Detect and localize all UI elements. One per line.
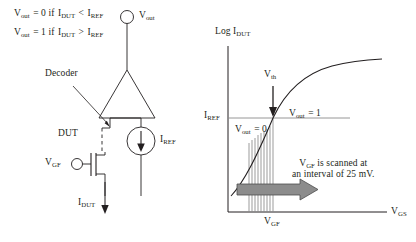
condition-2-vout: Vout — [14, 27, 30, 37]
condition-line-1: Vout = 0 if IDUT < IREF — [14, 8, 103, 19]
chart-vgf-tick-label: VGF — [264, 216, 280, 227]
scan-note-annotation: VGF is scanned at an interval of 25 mV. — [292, 158, 374, 180]
condition-1-vout: Vout — [14, 8, 30, 18]
vgf-terminal-label: VGF — [45, 157, 61, 168]
chart-iref-tick-label: IREF — [204, 110, 220, 121]
vout-terminal-circle — [121, 11, 134, 24]
vgf-terminal-circle — [72, 159, 83, 170]
condition-1-iref: IREF — [88, 8, 104, 18]
condition-2-idut: IDUT — [58, 27, 75, 37]
scan-note-line-2: an interval of 25 mV. — [292, 169, 374, 180]
vth-annotation-label: Vth — [264, 69, 276, 80]
dut-label: DUT — [58, 128, 78, 139]
idut-arrow-head — [101, 205, 108, 214]
circuit-schematic — [72, 11, 156, 215]
comparator-triangle — [99, 70, 155, 118]
figure-root: Vout = 0 if IDUT < IREF Vout = 1 if IDUT… — [0, 0, 416, 242]
condition-line-2: Vout = 1 if IDUT > IREF — [14, 27, 103, 38]
iref-source-label: IREF — [160, 134, 176, 145]
condition-2-iref: IREF — [88, 27, 104, 37]
condition-1-idut: IDUT — [58, 8, 75, 18]
decoder-pointer-line — [73, 86, 108, 124]
vout-terminal-label: Vout — [139, 10, 155, 21]
vout-high-annotation: Vout = 1 — [289, 108, 322, 119]
chart-y-axis-label: Log IDUT — [215, 26, 250, 37]
scan-note-line-1: VGF is scanned at — [292, 158, 374, 169]
chart-x-axis-label: VGS — [391, 206, 407, 217]
idut-label: IDUT — [78, 197, 95, 208]
decoder-label: Decoder — [45, 68, 78, 79]
vout-low-annotation: Vout = 0 — [235, 124, 268, 135]
